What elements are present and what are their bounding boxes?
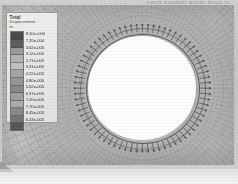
legend-unit-marker: m [10,25,56,30]
legend-subtitle: Displacement [10,20,56,25]
colorbar-tick-label: 8.10e+000 [26,31,45,38]
colorbar-tick-label: 4.22e-005 [26,71,45,78]
colorbar-swatch [11,108,23,116]
colorbar-swatches [10,31,24,131]
colorbar-swatch [11,70,23,78]
colorbar-swatch [11,86,23,94]
figure-root: FINITE ELEMENT MODEL RESULTS Total Displ… [0,0,238,184]
colorbar-tick-label: 7.20e-004 [26,38,45,45]
colorbar-swatch [11,116,23,124]
scan-bottom-band [0,169,238,184]
colorbar-tick-label: 3.12e-005 [26,51,45,58]
colorbar-tick-label: 2.71e-005 [26,58,45,65]
colorbar-tick-label: 8.45e-005 [26,110,45,117]
colorbar-swatch [11,101,23,109]
colorbar-tick-label: 5.62e-005 [26,84,45,91]
colorbar-swatch [11,48,23,56]
colorbar-tick-label: 7.70e-005 [26,104,45,111]
colorbar-swatch [11,32,23,40]
colorbar-tick-label: 6.37e-005 [26,91,45,98]
colorbar-tick-label: 7.20e-005 [26,97,45,104]
colorbar-swatch [11,78,23,86]
legend-body: 8.10e+0007.20e-0043.62e-0053.12e-0052.71… [10,31,56,131]
colorbar-tick-label: 6.43e-005 [26,117,45,124]
colorbar-tick-label: 4.80e-005 [26,78,45,85]
colorbar-tick-label: 3.62e-005 [26,45,45,52]
colorbar-swatch [11,123,23,130]
colorbar-swatch [11,40,23,48]
colorbar-labels: 8.10e+0007.20e-0043.62e-0053.12e-0052.71… [26,31,45,123]
colorbar-tick-label: 3.31e-005 [26,64,45,71]
legend-box[interactable]: Total Displacement m 8.10e+0007.20e-0043… [6,12,58,123]
colorbar-swatch [11,93,23,101]
colorbar-swatch [11,55,23,63]
colorbar-swatch [11,63,23,71]
